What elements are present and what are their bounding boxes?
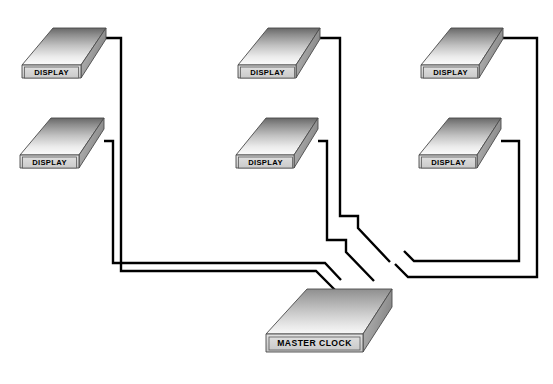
display-6-label: DISPLAY <box>431 158 466 167</box>
display-3-label: DISPLAY <box>433 68 468 77</box>
display-unit-4[interactable]: DISPLAY <box>20 118 104 168</box>
cable-display-2 <box>320 38 390 262</box>
display-unit-6[interactable]: DISPLAY <box>419 118 501 168</box>
display-unit-2[interactable]: DISPLAY <box>238 28 320 78</box>
cable-display-5 <box>318 141 374 281</box>
display-unit-3[interactable]: DISPLAY <box>421 28 503 78</box>
display-unit-5[interactable]: DISPLAY <box>236 118 318 168</box>
display-4-label: DISPLAY <box>32 158 67 167</box>
diagram-canvas: DISPLAY DISPLAY DISPLAY DISPLAY <box>0 0 553 384</box>
display-1-label: DISPLAY <box>34 68 69 77</box>
block-diagram-scene: DISPLAY DISPLAY DISPLAY DISPLAY <box>0 0 553 384</box>
master-clock-label: MASTER CLOCK <box>277 338 352 348</box>
cable-display-4 <box>104 141 341 280</box>
cable-display-1 <box>106 38 336 291</box>
display-2-label: DISPLAY <box>250 68 285 77</box>
display-unit-1[interactable]: DISPLAY <box>22 28 106 78</box>
master-clock-unit[interactable]: MASTER CLOCK <box>266 289 392 352</box>
display-5-label: DISPLAY <box>248 158 283 167</box>
